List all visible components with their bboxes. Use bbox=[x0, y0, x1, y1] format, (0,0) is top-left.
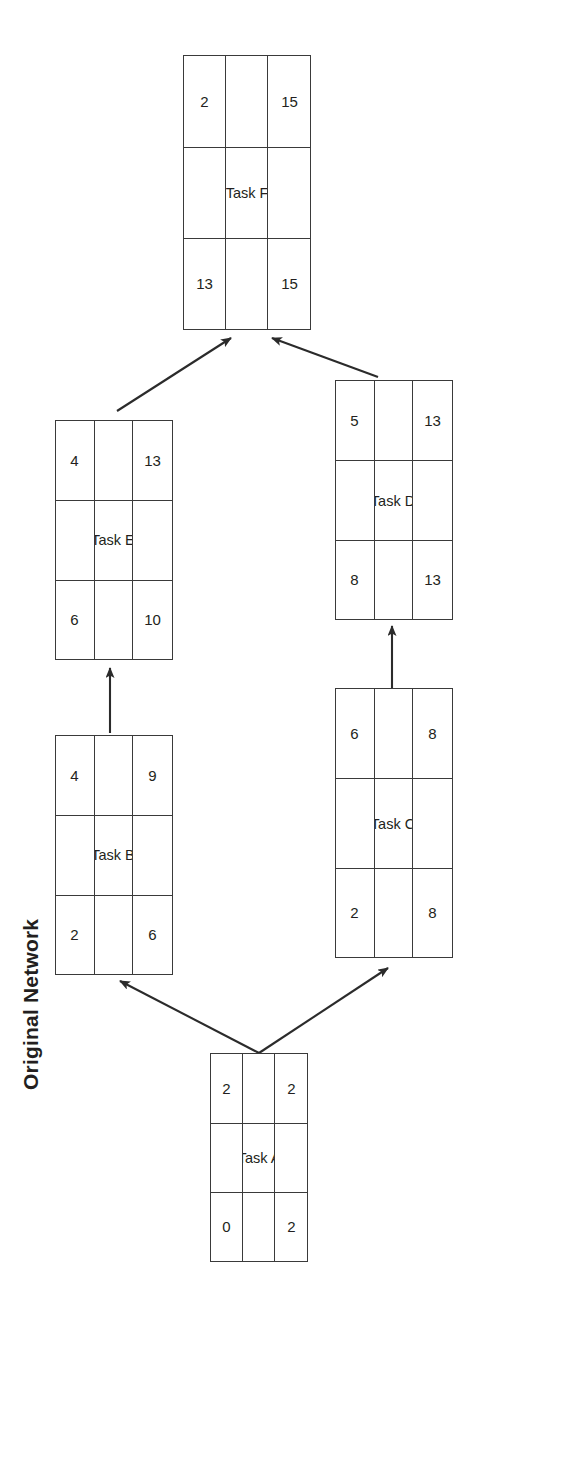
task-b-early-start: 2 bbox=[56, 895, 95, 974]
cell-value-text: Task D bbox=[375, 493, 414, 509]
task-c-left-blank bbox=[375, 868, 414, 957]
task-c-early-start: 2 bbox=[336, 868, 375, 957]
task-a-duration: 2 bbox=[211, 1054, 243, 1123]
page-title: Original Network bbox=[14, 830, 48, 1090]
edge-task-a-to-task-c bbox=[259, 968, 388, 1053]
task-b-bottom-middle-blank bbox=[133, 815, 172, 894]
task-e-duration: 4 bbox=[56, 421, 95, 500]
cell-value-text: 9 bbox=[148, 767, 156, 784]
task-c-top-middle-blank bbox=[336, 778, 375, 867]
task-e-label: Task E bbox=[95, 500, 134, 579]
task-f-label: Task F bbox=[226, 147, 268, 238]
cell-value-text: 15 bbox=[281, 93, 298, 110]
task-f-top-middle-blank bbox=[184, 147, 226, 238]
node-task-a[interactable]: 0 2 Task A 2 2 bbox=[210, 1053, 308, 1262]
cell-value-text: 5 bbox=[351, 412, 359, 429]
task-d-right-blank bbox=[375, 381, 414, 460]
cell-value-text: 8 bbox=[351, 571, 359, 588]
task-f-duration: 2 bbox=[184, 56, 226, 147]
task-d-label: Task D bbox=[375, 460, 414, 539]
cell-value-text: 13 bbox=[424, 412, 441, 429]
cell-value-text: 6 bbox=[71, 611, 79, 628]
task-b-right-blank bbox=[95, 736, 134, 815]
task-f-late-finish: 15 bbox=[268, 56, 310, 147]
task-e-late-finish: 13 bbox=[133, 421, 172, 500]
cell-value-text: 8 bbox=[428, 725, 436, 742]
task-d-late-finish: 13 bbox=[413, 381, 452, 460]
cell-value-text: Task E bbox=[95, 533, 134, 549]
task-c-duration: 6 bbox=[336, 689, 375, 778]
node-task-b[interactable]: 2 4 Task B 6 9 bbox=[55, 735, 173, 975]
task-b-duration: 4 bbox=[56, 736, 95, 815]
cell-value-text: 4 bbox=[71, 767, 79, 784]
cell-value-text: 0 bbox=[222, 1219, 230, 1236]
cell-value-text: 2 bbox=[287, 1219, 295, 1236]
task-c-right-blank bbox=[375, 689, 414, 778]
task-a-early-start: 0 bbox=[211, 1192, 243, 1261]
task-c-bottom-middle-blank bbox=[413, 778, 452, 867]
task-f-bottom-middle-blank bbox=[268, 147, 310, 238]
cell-value-text: 6 bbox=[351, 725, 359, 742]
cell-value-text: 8 bbox=[428, 904, 436, 921]
task-c-early-finish: 8 bbox=[413, 868, 452, 957]
cell-value-text: 2 bbox=[71, 926, 79, 943]
task-e-early-finish: 10 bbox=[133, 580, 172, 659]
network-diagram-canvas: Original Network bbox=[0, 0, 562, 1462]
cell-value-text: 2 bbox=[222, 1080, 230, 1097]
task-a-early-finish: 2 bbox=[275, 1192, 307, 1261]
edge-task-e-to-task-f bbox=[117, 338, 231, 411]
task-d-bottom-middle-blank bbox=[413, 460, 452, 539]
task-c-late-finish: 8 bbox=[413, 689, 452, 778]
edge-task-d-to-task-f bbox=[272, 338, 378, 377]
task-b-label: Task B bbox=[95, 815, 134, 894]
task-a-left-blank bbox=[243, 1192, 275, 1261]
task-b-left-blank bbox=[95, 895, 134, 974]
task-a-top-middle-blank bbox=[211, 1123, 243, 1192]
cell-value-text: 2 bbox=[287, 1080, 295, 1097]
node-task-e[interactable]: 6 4 Task E 10 13 bbox=[55, 420, 173, 660]
task-e-top-middle-blank bbox=[56, 500, 95, 579]
cell-value-text: Task C bbox=[375, 816, 414, 832]
task-d-duration: 5 bbox=[336, 381, 375, 460]
task-d-left-blank bbox=[375, 540, 414, 619]
cell-value-text: 13 bbox=[144, 452, 161, 469]
task-a-late-finish: 2 bbox=[275, 1054, 307, 1123]
task-f-left-blank bbox=[226, 238, 268, 329]
task-e-bottom-middle-blank bbox=[133, 500, 172, 579]
cell-value-text: 4 bbox=[71, 452, 79, 469]
task-a-bottom-middle-blank bbox=[275, 1123, 307, 1192]
task-b-early-finish: 6 bbox=[133, 895, 172, 974]
task-c-label: Task C bbox=[375, 778, 414, 867]
cell-value-text: Task A bbox=[243, 1150, 275, 1166]
cell-value-text: 15 bbox=[281, 276, 298, 293]
cell-value-text: Task B bbox=[95, 848, 134, 864]
task-b-late-finish: 9 bbox=[133, 736, 172, 815]
task-e-early-start: 6 bbox=[56, 580, 95, 659]
cell-value-text: 2 bbox=[200, 93, 208, 110]
cell-value-text: 2 bbox=[351, 904, 359, 921]
cell-value-text: 6 bbox=[148, 926, 156, 943]
node-task-f[interactable]: 13 2 Task F 15 15 bbox=[183, 55, 311, 330]
task-a-label: Task A bbox=[243, 1123, 275, 1192]
cell-value-text: 10 bbox=[144, 611, 161, 628]
edge-task-a-to-task-b bbox=[120, 981, 259, 1053]
node-task-c[interactable]: 2 6 Task C 8 8 bbox=[335, 688, 453, 958]
task-b-top-middle-blank bbox=[56, 815, 95, 894]
task-a-right-blank bbox=[243, 1054, 275, 1123]
node-task-d[interactable]: 8 5 Task D 13 13 bbox=[335, 380, 453, 620]
task-e-right-blank bbox=[95, 421, 134, 500]
cell-value-text: 13 bbox=[196, 276, 213, 293]
cell-value-text: Task F bbox=[226, 185, 268, 201]
task-f-early-start: 13 bbox=[184, 238, 226, 329]
task-e-left-blank bbox=[95, 580, 134, 659]
task-d-early-finish: 13 bbox=[413, 540, 452, 619]
task-f-right-blank bbox=[226, 56, 268, 147]
task-d-early-start: 8 bbox=[336, 540, 375, 619]
task-f-early-finish: 15 bbox=[268, 238, 310, 329]
task-d-top-middle-blank bbox=[336, 460, 375, 539]
cell-value-text: 13 bbox=[424, 571, 441, 588]
